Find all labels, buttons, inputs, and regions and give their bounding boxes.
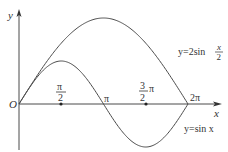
- curve-label-two-sin-frac-den: 2: [217, 52, 222, 62]
- tick-pi-label: π: [104, 93, 109, 104]
- tick-two-pi-label: 2π: [190, 92, 200, 103]
- two-sin-half-x-curve: [19, 18, 188, 104]
- function-graph: y x O π 2 π 3 2 π 2π y=2sin x 2 y=sin x: [0, 0, 228, 152]
- curve-label-two-sin-frac-num: x: [216, 42, 221, 52]
- tick-three-half-pi-den: 2: [140, 92, 145, 103]
- curve-label-sin-x: y=sin x: [184, 123, 214, 134]
- origin-label: O: [9, 98, 17, 110]
- y-axis-label: y: [7, 9, 13, 21]
- tick-three-half-pi-num: 3: [140, 80, 145, 91]
- tick-half-pi-den: 2: [58, 92, 63, 103]
- x-axis-label: x: [213, 107, 219, 119]
- curve-label-two-sin-prefix: y=2sin: [178, 46, 205, 57]
- tick-half-pi-num: π: [57, 81, 62, 92]
- tick-three-half-pi-suffix: π: [149, 83, 154, 94]
